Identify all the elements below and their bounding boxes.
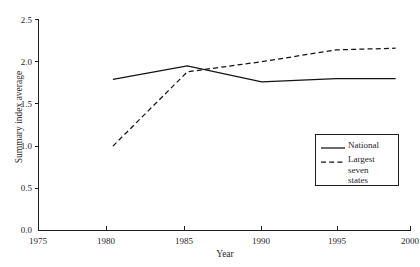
- series-line-largest-seven-states: [113, 48, 396, 146]
- legend-item-largest-seven-states: Largest seven states: [320, 154, 375, 186]
- legend-dashed-line-icon: [320, 157, 346, 167]
- series-line-national: [113, 66, 396, 82]
- axis-lines: [39, 20, 411, 231]
- legend-item-national: National: [320, 140, 379, 153]
- legend-label-national: National: [348, 140, 379, 151]
- chart-container: 2.5 2.0 1.5 1.0 0.5 0.0 1975 1980 1985 1…: [0, 0, 420, 267]
- legend-solid-line-icon: [320, 143, 346, 153]
- chart-legend: National Largest seven states: [315, 134, 399, 186]
- y-axis-ticks: [35, 20, 39, 189]
- legend-label-largest-seven-states: Largest seven states: [348, 154, 375, 186]
- x-axis-ticks: [39, 226, 411, 231]
